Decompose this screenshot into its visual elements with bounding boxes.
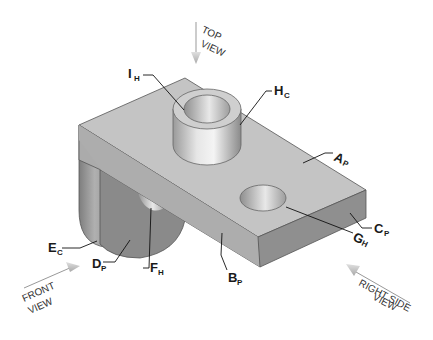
label-D_P: D P	[92, 256, 107, 273]
isometric-drawing: TOP VIEW FRONT VIEW RIGHT SIDE VIEW I H …	[0, 0, 433, 340]
svg-text:P: P	[237, 278, 243, 287]
svg-text:B: B	[228, 270, 237, 285]
label-B_P: B P	[228, 270, 243, 287]
label-I_H: I H	[128, 66, 140, 83]
svg-text:P: P	[384, 229, 390, 238]
svg-text:C: C	[374, 221, 384, 236]
svg-text:C: C	[57, 248, 63, 257]
right-side-view-arrow: RIGHT SIDE VIEW	[346, 264, 413, 314]
front-view-arrow: FRONT VIEW	[20, 262, 80, 316]
cylindrical-boss	[173, 89, 241, 165]
label-H_C: H C	[274, 83, 290, 100]
label-E_C: E C	[48, 240, 63, 257]
svg-text:H: H	[158, 268, 164, 277]
label-A_P: A P	[332, 149, 351, 169]
through-hole	[240, 185, 286, 211]
svg-text:H: H	[274, 83, 283, 98]
svg-text:I: I	[128, 66, 132, 81]
svg-text:C: C	[284, 91, 290, 100]
svg-text:E: E	[48, 240, 57, 255]
svg-text:P: P	[101, 264, 107, 273]
label-C_P: C P	[374, 221, 390, 238]
top-view-arrow: TOP VIEW	[191, 22, 227, 64]
label-F_H: F H	[150, 260, 164, 277]
label-G_H: G H	[351, 229, 370, 249]
svg-text:F: F	[150, 260, 158, 275]
svg-text:H: H	[134, 74, 140, 83]
svg-text:D: D	[92, 256, 101, 271]
top-view-label-2: VIEW	[199, 38, 227, 59]
